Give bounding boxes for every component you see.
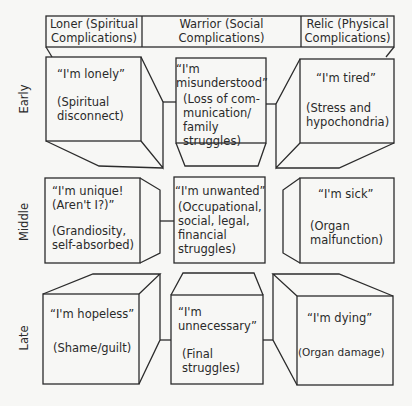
- column-header-relic: Relic (Physical Complications): [301, 17, 394, 47]
- cell-description: (Occupational, social, legal, financial …: [175, 200, 267, 256]
- cell-early-loner: “I'm lonely” (Spiritual disconnect): [57, 67, 139, 123]
- cell-description: (Spiritual disconnect): [57, 95, 139, 123]
- cell-late-relic: “I'm dying” (Organ damage): [298, 311, 396, 359]
- cell-description: (Organ damage): [298, 345, 396, 359]
- column-header-loner-line1: Loner (Spiritual: [50, 17, 138, 31]
- diagram-canvas: Loner (Spiritual Complications) Warrior …: [0, 0, 412, 406]
- cell-late-warrior: “I'm unnecessary” (Final struggles): [178, 305, 264, 375]
- cell-late-loner: “I'm hopeless” (Shame/guilt): [50, 307, 140, 355]
- cell-quote: “I'm hopeless”: [50, 307, 140, 321]
- cell-middle-relic: “I'm sick” (Organ malfunction): [310, 187, 394, 247]
- cell-early-relic: “I'm tired” (Stress and hypochondria): [306, 71, 396, 129]
- cell-quote: “I'm unique! (Aren't I?)”: [52, 184, 140, 212]
- cell-quote: “I'm unnecessary”: [178, 305, 264, 333]
- cell-middle-loner: “I'm unique! (Aren't I?)” (Grandiosity, …: [52, 184, 140, 252]
- cell-quote: “I'm lonely”: [57, 67, 139, 81]
- cell-quote: “I'm tired”: [306, 71, 396, 85]
- row-label-late: Late: [17, 308, 31, 368]
- cell-middle-warrior: “I'm unwanted” (Occupational, social, le…: [175, 184, 267, 256]
- row-label-middle: Middle: [17, 192, 31, 252]
- column-header-relic-line1: Relic (Physical: [306, 17, 388, 31]
- cell-description: (Loss of com-munication/ family struggle…: [176, 92, 268, 148]
- column-header-warrior: Warrior (Social Complications): [142, 17, 301, 47]
- cell-early-warrior: “I'm misunderstood” (Loss of com-municat…: [176, 62, 268, 148]
- cell-description: (Grandiosity, self-absorbed): [52, 224, 140, 252]
- cell-quote: “I'm dying”: [298, 311, 396, 325]
- column-header-warrior-line1: Warrior (Social: [179, 17, 263, 31]
- cell-quote: “I'm sick”: [310, 187, 394, 201]
- cell-description: (Shame/guilt): [50, 341, 140, 355]
- row-label-early: Early: [17, 69, 31, 129]
- column-header-loner: Loner (Spiritual Complications): [46, 17, 142, 47]
- column-header-warrior-line2: Complications): [179, 31, 265, 45]
- cell-description: (Organ malfunction): [310, 219, 394, 247]
- cell-quote: “I'm misunderstood”: [176, 62, 268, 90]
- cell-quote: “I'm unwanted”: [175, 184, 267, 198]
- cell-description: (Stress and hypochondria): [306, 101, 396, 129]
- cell-description: (Final struggles): [178, 347, 264, 375]
- column-header-relic-line2: Complications): [305, 31, 391, 45]
- column-header-loner-line2: Complications): [51, 31, 137, 45]
